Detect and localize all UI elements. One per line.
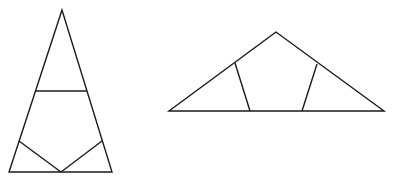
left-triangle-lower-right-cut (61, 141, 102, 172)
left-triangle-figure (9, 10, 112, 172)
right-triangle-right-cut (302, 64, 317, 111)
right-triangle-outline (169, 32, 384, 111)
right-triangle-figure (169, 32, 384, 111)
left-triangle-lower-left-cut (19, 141, 61, 172)
figure-canvas (0, 0, 393, 187)
right-triangle-left-cut (235, 63, 250, 111)
